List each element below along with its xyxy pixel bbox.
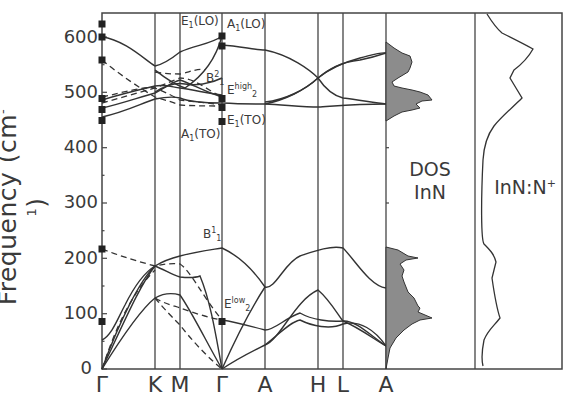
phonon-dispersion-figure: Frequency (cm-1) 0 100 200 300 400 500 6… [0,0,564,401]
x-tick-a-2: A [371,372,401,397]
mode-label-a1-lo: A1(LO) [227,17,265,33]
x-tick-m: M [165,372,195,397]
x-tick-l: L [328,372,358,397]
y-tick-0: 0 [52,357,92,378]
y-tick-100: 100 [58,302,98,323]
mode-label-b1-2: B21 [206,70,224,87]
y-tick-500: 500 [58,81,98,102]
optical-branches-dashed [102,60,222,106]
y-tick-200: 200 [58,247,98,268]
inn-n-plus-label: InN:N+ [490,172,560,199]
mode-label-b1-1: B11 [203,226,221,243]
mode-label-e1-to: E1(TO) [227,113,266,129]
experimental-markers [99,21,226,326]
acoustic-branches-dashed [102,249,222,369]
x-tick-gamma-2: Γ [207,372,237,397]
dos-inn-label: DOSInN [402,158,458,204]
dos-inn-area [386,42,432,121]
mode-label-e2-low: Elow2 [224,296,250,313]
y-tick-300: 300 [58,191,98,212]
x-tick-a: A [250,372,280,397]
mode-label-e2-high: Ehigh2 [227,82,257,99]
mode-label-a1-to: A1(TO) [181,127,220,143]
x-tick-gamma: Γ [87,372,117,397]
y-tick-600: 600 [58,26,98,47]
dos-inn-area-acoustic [386,247,432,369]
mode-label-e1-lo: E1(LO) [181,14,219,30]
y-tick-400: 400 [58,136,98,157]
y-axis-label: Frequency (cm-1) [0,107,51,307]
